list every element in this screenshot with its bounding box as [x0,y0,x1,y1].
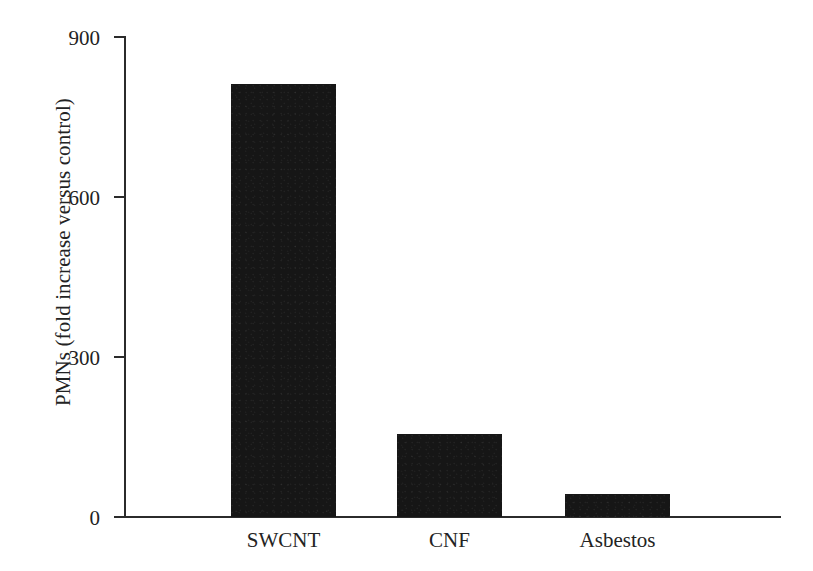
y-tick-label-900: 900 [69,26,101,51]
y-axis-line [124,36,126,518]
y-tick-label-0: 0 [90,506,101,531]
y-tick-label-600: 600 [69,186,101,211]
bar-asbestos [565,494,670,517]
x-tick-label-asbestos: Asbestos [518,528,718,552]
y-tick-label-300: 300 [69,346,101,371]
bar-chart: PMNs (fold increase versus control) 900 … [0,0,813,571]
y-tick-mark-300 [114,356,125,358]
y-tick-mark-600 [114,196,125,198]
y-axis-title: PMNs (fold increase versus control) [46,0,80,512]
y-tick-mark-0 [114,516,125,518]
y-tick-mark-900 [114,36,125,38]
bar-cnf [397,434,502,517]
bar-swcnt [231,84,336,517]
